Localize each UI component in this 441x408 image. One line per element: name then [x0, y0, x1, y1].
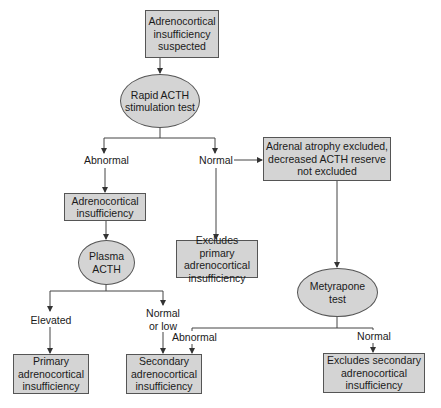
edge-label-elevated: Elevated — [30, 314, 72, 327]
node-label: Excludes secondary adrenocortical insuff… — [327, 354, 421, 392]
node-rapid-acth-stimulation-test: Rapid ACTH stimulation test — [120, 74, 200, 128]
node-excludes-primary: Excludes primary adrenocortical insuffic… — [176, 240, 258, 278]
node-label: Excludes primary adrenocortical insuffic… — [177, 234, 257, 284]
node-label: Plasma ACTH — [89, 250, 124, 275]
node-excludes-secondary: Excludes secondary adrenocortical insuff… — [323, 353, 425, 393]
node-primary-adrenocortical-insufficiency: Primary adrenocortical insufficiency — [13, 354, 89, 394]
edge-label-abnormal: Abnormal — [84, 154, 128, 167]
node-label: Adrenal atrophy excluded, decreased ACTH… — [266, 140, 388, 178]
node-metyrapone-test: Metyrapone test — [297, 268, 378, 317]
edge-label-metyrapone-normal: Normal — [357, 330, 391, 343]
node-label: Rapid ACTH stimulation test — [125, 89, 195, 114]
node-label: Adrenocortical insufficiency suspected — [148, 15, 215, 53]
node-adrenocortical-insufficiency-suspected: Adrenocortical insufficiency suspected — [145, 10, 219, 58]
edge-label-normal-or-low: Normal or low — [146, 307, 180, 332]
node-label: Secondary adrenocortical insufficiency — [131, 355, 197, 393]
node-secondary-adrenocortical-insufficiency: Secondary adrenocortical insufficiency — [126, 354, 202, 394]
node-adrenocortical-insufficiency: Adrenocortical insufficiency — [64, 193, 146, 221]
edge-label-normal: Normal — [198, 154, 234, 167]
edge-label-metyrapone-abnormal: Abnormal — [172, 331, 216, 344]
node-plasma-acth: Plasma ACTH — [78, 240, 135, 285]
node-adrenal-atrophy-excluded: Adrenal atrophy excluded, decreased ACTH… — [263, 137, 391, 181]
node-label: Adrenocortical insufficiency — [71, 195, 138, 220]
node-label: Primary adrenocortical insufficiency — [18, 355, 84, 393]
node-label: Metyrapone test — [310, 280, 365, 305]
